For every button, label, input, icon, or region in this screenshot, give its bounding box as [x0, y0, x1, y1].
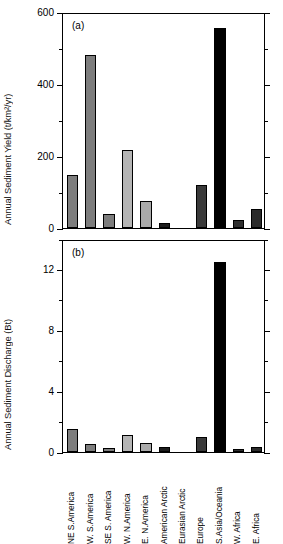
- y-tick-label: 400: [20, 79, 54, 90]
- y-tick-minor: [59, 300, 63, 301]
- panel-b-plot-area: [63, 241, 264, 452]
- bar: [214, 262, 225, 452]
- bar: [159, 447, 170, 452]
- y-tick-major: [57, 270, 63, 271]
- x-axis-label: S.Asia/Oceania: [214, 458, 224, 544]
- y-tick-minor: [264, 240, 268, 241]
- x-axis-label: American Arctic: [159, 458, 169, 544]
- y-tick-minor: [59, 49, 63, 50]
- y-tick-minor: [264, 422, 268, 423]
- panel-a-y-axis-label: Annual Sediment Yield (t/km²/yr): [2, 10, 13, 225]
- y-tick-minor: [59, 240, 63, 241]
- panel-b-y-axis-label: Annual Sediment Discharge (Bt): [2, 245, 13, 450]
- y-tick-major: [57, 453, 63, 454]
- y-tick-label: 8: [20, 325, 54, 336]
- y-tick-label: 12: [20, 264, 54, 275]
- x-axis-label: Europe: [195, 458, 205, 544]
- y-tick-minor: [59, 121, 63, 122]
- y-tick-major-right: [264, 453, 270, 454]
- x-axis-label: W. Africa: [232, 458, 242, 544]
- x-axis-label: W. N.America: [122, 458, 132, 544]
- bar: [67, 175, 78, 228]
- y-tick-major-right: [264, 331, 270, 332]
- panel-a-plot-frame: [62, 13, 265, 229]
- panel-a-plot-area: [63, 14, 264, 228]
- x-axis-label: Eurasian Arctic: [177, 458, 187, 544]
- y-tick-label: 0: [20, 223, 54, 234]
- y-tick-minor: [59, 361, 63, 362]
- panel-b-plot-frame: [62, 240, 265, 453]
- bar: [85, 444, 96, 452]
- y-tick-major: [57, 157, 63, 158]
- bar: [122, 435, 133, 452]
- bar: [233, 449, 244, 452]
- y-tick-major-right: [264, 85, 270, 86]
- y-tick-major-right: [264, 157, 270, 158]
- bar: [67, 429, 78, 452]
- y-tick-major: [57, 331, 63, 332]
- bar: [103, 448, 114, 452]
- y-tick-minor: [59, 193, 63, 194]
- x-axis-category-labels: NE S.AmericaW. S.AmericaSE S. AmericaW. …: [62, 456, 265, 544]
- bar: [251, 209, 262, 228]
- bar: [233, 220, 244, 228]
- y-tick-major-right: [264, 392, 270, 393]
- y-tick-minor: [59, 422, 63, 423]
- bar: [214, 28, 225, 228]
- bar: [196, 437, 207, 452]
- y-tick-minor: [264, 300, 268, 301]
- y-tick-major: [57, 392, 63, 393]
- x-axis-label: SE S. America: [103, 458, 113, 544]
- x-axis-label: E. Africa: [251, 458, 261, 544]
- y-tick-major: [57, 229, 63, 230]
- figure-root: Annual Sediment Yield (t/km²/yr) (a) 020…: [0, 0, 283, 544]
- bar: [159, 223, 170, 228]
- bar: [251, 447, 262, 452]
- bar: [140, 201, 151, 228]
- x-axis-label: E. N.America: [140, 458, 150, 544]
- x-axis-label: NE S.America: [66, 458, 76, 544]
- bar: [196, 185, 207, 228]
- y-tick-minor: [264, 49, 268, 50]
- y-tick-label: 4: [20, 386, 54, 397]
- y-tick-major: [57, 13, 63, 14]
- y-tick-major-right: [264, 13, 270, 14]
- x-axis-label: W. S.America: [85, 458, 95, 544]
- panel-a-tag: (a): [72, 20, 84, 31]
- y-tick-label: 600: [20, 7, 54, 18]
- panel-b-tag: (b): [72, 247, 84, 258]
- y-tick-minor: [264, 121, 268, 122]
- y-tick-label: 200: [20, 151, 54, 162]
- bar: [85, 55, 96, 228]
- y-tick-major-right: [264, 270, 270, 271]
- bar: [103, 214, 114, 228]
- y-tick-major: [57, 85, 63, 86]
- y-tick-label: 0: [20, 447, 54, 458]
- y-tick-minor: [264, 193, 268, 194]
- bar: [140, 443, 151, 452]
- bar: [122, 150, 133, 228]
- y-tick-minor: [264, 361, 268, 362]
- y-tick-major-right: [264, 229, 270, 230]
